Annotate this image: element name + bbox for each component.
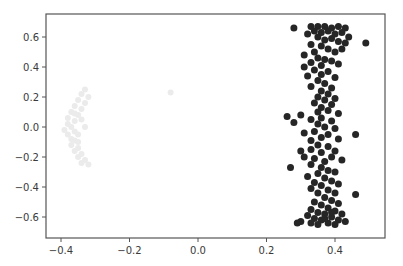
data-point [342,40,349,47]
data-point [308,116,315,123]
data-point [335,200,342,207]
x-tick-label: −0.2 [117,245,141,256]
data-point [311,199,318,206]
data-point [328,85,335,92]
data-point [342,218,349,225]
data-point [308,185,315,192]
data-point [308,41,315,48]
y-tick-label: −0.6 [15,212,39,223]
data-point [321,175,328,182]
data-point [318,43,325,50]
data-point [325,28,332,35]
data-point [301,64,308,71]
data-point [314,94,321,101]
data-point [85,162,91,168]
data-point [304,173,311,180]
data-point [82,100,88,106]
x-tick-label: 0.2 [259,245,275,256]
data-point [338,46,345,53]
data-point [287,164,294,171]
data-point [325,68,332,75]
data-point [335,110,342,117]
data-point [338,157,345,164]
data-point [308,59,315,66]
data-point [345,34,352,41]
data-point [325,91,332,98]
data-point [311,128,318,135]
data-point [321,56,328,63]
chart-background [0,0,403,266]
data-point [301,52,308,59]
data-point [72,138,78,144]
data-point [332,148,339,155]
data-point [362,40,369,47]
data-point [325,143,332,150]
data-point [308,83,315,90]
y-tick-label: 0.2 [23,92,39,103]
data-point [311,67,318,74]
data-point [308,146,315,153]
data-point [304,212,311,219]
x-tick-label: −0.4 [49,245,73,256]
data-point [294,220,301,227]
data-point [335,136,342,143]
data-point [328,35,335,42]
data-point [314,190,321,197]
data-point [65,115,71,121]
data-point [332,221,339,228]
data-point [321,97,328,104]
y-tick-label: −0.4 [15,182,39,193]
data-point [318,164,325,171]
data-point [325,107,332,114]
data-point [321,80,328,87]
data-point [72,111,78,117]
data-point [318,88,325,95]
data-point [318,71,325,78]
data-point [314,142,321,149]
data-point [75,154,81,160]
data-point [321,194,328,201]
data-point [308,137,315,144]
data-point [328,154,335,161]
data-point [352,131,359,138]
data-point [328,118,335,125]
data-point [79,117,85,123]
data-point [79,160,85,166]
data-point [75,132,81,138]
data-point [332,190,339,197]
data-point [328,58,335,65]
data-point [335,38,342,45]
data-point [318,149,325,156]
data-point [314,77,321,84]
data-point [314,55,321,62]
data-point [301,154,308,161]
data-point [325,46,332,53]
data-point [318,202,325,209]
data-point [318,134,325,141]
y-tick-label: 0.6 [23,32,39,43]
data-point [318,182,325,189]
data-point [75,97,81,103]
data-point [72,103,78,109]
data-point [85,94,91,100]
data-point [308,220,315,227]
data-point [325,167,332,174]
data-point [325,187,332,194]
data-point [290,25,297,32]
data-point [328,178,335,185]
data-point [297,112,304,119]
data-point [79,91,85,97]
data-point [335,61,342,68]
data-point [332,49,339,56]
data-point [338,29,345,36]
data-point [328,101,335,108]
data-point [284,113,291,120]
y-tick-label: −0.2 [15,152,39,163]
data-point [335,181,342,188]
data-point [314,34,321,41]
data-point [332,125,339,132]
data-point [314,170,321,177]
data-point [318,62,325,69]
y-tick-label: 0.4 [23,62,39,73]
data-point [304,31,311,38]
